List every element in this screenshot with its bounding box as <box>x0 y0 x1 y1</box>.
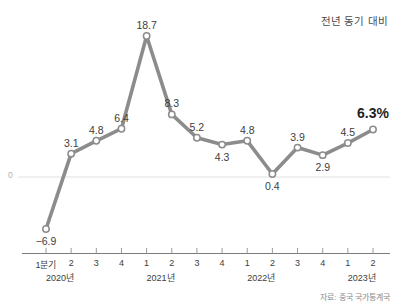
legend-note: 전년 동기 대비 <box>321 13 388 28</box>
x-axis-quarter-label: 4 <box>320 258 325 268</box>
source-note: 자료: 중국 국가통계국 <box>320 291 390 302</box>
data-point-label: 6.3% <box>357 105 389 121</box>
x-axis-quarter-label: 2 <box>169 258 174 268</box>
x-axis-year-label: 2020년 <box>46 271 74 284</box>
x-axis-year-label: 2022년 <box>247 271 275 284</box>
x-axis-quarter-label: 2 <box>370 258 375 268</box>
data-point-label: 3.1 <box>64 137 79 149</box>
x-axis-quarter-label: 1 <box>245 258 250 268</box>
x-axis-year-label: 2023년 <box>348 271 376 284</box>
data-point-marker <box>194 135 200 141</box>
data-point-label: 4.3 <box>215 151 230 163</box>
data-point-marker <box>219 141 225 147</box>
data-point-label: 8.3 <box>164 97 179 109</box>
data-point-marker <box>169 111 175 117</box>
x-axis-quarter-label: 3 <box>194 258 199 268</box>
data-point-marker <box>93 138 99 144</box>
chart-container: 전년 동기 대비 0 −6.93.14.86.418.78.35.24.34.8… <box>0 0 398 308</box>
x-axis-quarter-label: 4 <box>220 258 225 268</box>
x-axis-quarter-label: 3 <box>295 258 300 268</box>
data-point-marker <box>118 126 124 132</box>
data-point-label: 0.4 <box>265 180 280 192</box>
x-axis-quarter-label: 4 <box>119 258 124 268</box>
data-point-marker <box>43 226 49 232</box>
data-point-marker <box>319 152 325 158</box>
x-axis-quarter-label: 1분기 <box>35 258 56 271</box>
x-axis-group <box>22 248 390 254</box>
data-point-label: 5.2 <box>190 121 205 133</box>
x-axis-quarter-label: 2 <box>270 258 275 268</box>
x-axis-quarter-label: 3 <box>94 258 99 268</box>
x-axis-quarter-label: 2 <box>69 258 74 268</box>
x-axis-quarter-label: 1 <box>144 258 149 268</box>
x-axis-year-label: 2021년 <box>147 271 175 284</box>
x-axis-quarter-label: 1 <box>345 258 350 268</box>
data-point-marker <box>370 126 376 132</box>
data-point-label: 4.8 <box>240 124 255 136</box>
data-point-marker <box>68 150 74 156</box>
data-point-label: 2.9 <box>315 161 330 173</box>
x-axis-ticks <box>46 248 373 254</box>
data-point-label: −6.9 <box>36 235 57 247</box>
data-point-label: 3.9 <box>290 131 305 143</box>
data-point-marker <box>294 144 300 150</box>
data-point-marker <box>143 33 149 39</box>
data-point-label: 18.7 <box>136 19 156 31</box>
data-point-label: 4.5 <box>340 126 355 138</box>
data-point-marker <box>345 140 351 146</box>
data-point-label: 6.4 <box>114 112 129 124</box>
zero-axis-label: 0 <box>8 170 13 180</box>
data-point-label: 4.8 <box>89 124 104 136</box>
data-point-marker <box>269 171 275 177</box>
data-point-marker <box>244 138 250 144</box>
